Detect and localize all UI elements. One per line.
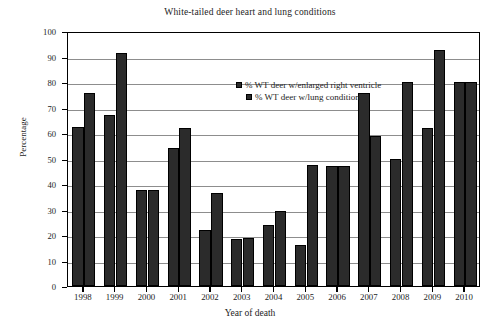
y-tick-mark [62,134,67,135]
y-tick-mark [62,160,67,161]
bar [295,245,306,286]
legend-label-ventricle: % WT deer w/enlarged right ventricle [245,80,381,90]
bars-layer [68,33,479,286]
y-tick-mark [62,32,67,33]
bar [465,82,476,286]
bar [422,128,433,286]
legend-swatch-icon [246,94,252,100]
chart-title: White-tailed deer heart and lung conditi… [0,7,500,17]
y-tick-label: 60 [10,130,56,139]
bar [434,50,445,286]
bar [231,239,242,286]
bar [454,82,465,286]
y-tick-mark [62,83,67,84]
bar [148,190,159,286]
y-tick-label: 80 [10,79,56,88]
y-tick-mark [62,211,67,212]
bar [275,211,286,286]
bar [402,82,413,286]
y-tick-label: 50 [10,156,56,165]
bar [338,166,349,286]
y-tick-mark [62,185,67,186]
bar [326,166,337,286]
bar [211,193,222,286]
y-tick-label: 90 [10,54,56,63]
y-tick-label: 40 [10,181,56,190]
bar [370,136,381,286]
legend-item-ventricle: % WT deer w/enlarged right ventricle [236,79,381,91]
bar [84,93,95,286]
chart-figure: White-tailed deer heart and lung conditi… [0,0,500,328]
bar [390,159,401,287]
legend-swatch-icon [236,82,242,88]
chart-legend: % WT deer w/enlarged right ventricle % W… [236,79,381,103]
y-tick-mark [62,236,67,237]
plot-area: % WT deer w/enlarged right ventricle % W… [67,32,480,287]
y-tick-mark [62,109,67,110]
bar [116,53,127,286]
y-tick-label: 100 [10,28,56,37]
y-tick-label: 20 [10,232,56,241]
bar [199,230,210,286]
bar [136,190,147,286]
bar [263,225,274,286]
y-tick-mark [62,58,67,59]
bar [104,115,115,286]
bar [243,238,254,286]
bar [72,127,83,286]
y-tick-label: 30 [10,207,56,216]
bar [307,165,318,286]
y-tick-label: 70 [10,105,56,114]
bar [358,93,369,286]
y-tick-mark [62,262,67,263]
bar [179,128,190,286]
y-tick-label: 0 [10,283,56,292]
bar [168,148,179,286]
legend-item-lung: % WT deer w/lung condition [246,91,381,103]
x-tick-label: 2010 [442,293,486,302]
legend-label-lung: % WT deer w/lung condition [255,92,360,102]
x-axis-title: Year of death [0,308,500,318]
y-tick-label: 10 [10,258,56,267]
y-tick-mark [62,287,67,288]
